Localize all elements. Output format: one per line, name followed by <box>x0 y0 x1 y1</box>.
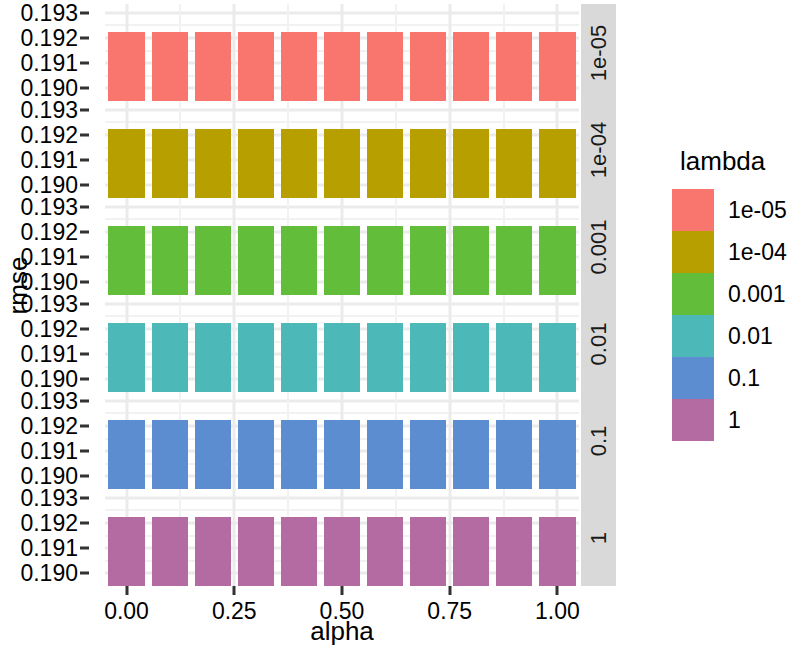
facet-panel <box>105 295 579 392</box>
y-tick-label: 0.193 <box>20 486 78 509</box>
y-tick-label: 0.192 <box>20 221 78 244</box>
bar <box>281 323 317 392</box>
bar <box>152 420 188 489</box>
legend-items: 1e-051e-040.0010.010.11 <box>672 189 802 441</box>
y-tick-mark <box>80 302 89 305</box>
legend-item[interactable]: 0.001 <box>672 273 802 315</box>
legend-item[interactable]: 0.1 <box>672 357 802 399</box>
bar <box>195 226 231 295</box>
bar <box>324 517 360 586</box>
y-axis-ticks: 0.1930.1920.1910.190 <box>0 295 92 392</box>
y-tick-mark <box>80 281 89 284</box>
bar <box>108 226 144 295</box>
facet-panel <box>105 4 579 101</box>
bar <box>496 323 532 392</box>
facet-strip: 0.01 <box>581 295 616 392</box>
bar <box>453 226 489 295</box>
facet-strip: 0.1 <box>581 392 616 489</box>
gridline-vertical-major <box>233 101 236 198</box>
bar <box>367 517 403 586</box>
x-tick-mark <box>125 586 128 595</box>
bar <box>324 226 360 295</box>
y-tick-label: 0.191 <box>20 343 78 366</box>
legend-label: 0.01 <box>728 323 773 350</box>
bar <box>238 226 274 295</box>
bar <box>324 32 360 101</box>
legend-key-swatch <box>672 357 714 399</box>
y-tick-mark <box>80 547 89 550</box>
facet-panel <box>105 101 579 198</box>
bar <box>539 226 575 295</box>
facet-strip: 1e-04 <box>581 101 616 198</box>
bar <box>195 323 231 392</box>
bar <box>281 226 317 295</box>
facet-strip-label: 1e-04 <box>586 121 612 177</box>
y-tick-mark <box>80 496 89 499</box>
facet-strip-label: 0.001 <box>586 219 612 274</box>
facet-row: 0.1930.1920.1910.1901 <box>0 489 620 586</box>
facet-row: 0.1930.1920.1910.1901e-04 <box>0 101 620 198</box>
bar <box>238 323 274 392</box>
y-axis-ticks: 0.1930.1920.1910.190 <box>0 392 92 489</box>
bar <box>195 517 231 586</box>
bar <box>410 32 446 101</box>
y-tick-label: 0.193 <box>20 292 78 315</box>
gridline-vertical-major <box>233 4 236 101</box>
bar <box>152 32 188 101</box>
legend-key-swatch <box>672 189 714 231</box>
y-tick-mark <box>80 134 89 137</box>
legend-item[interactable]: 1 <box>672 399 802 441</box>
bar <box>496 32 532 101</box>
bar <box>453 517 489 586</box>
legend-item[interactable]: 0.01 <box>672 315 802 357</box>
bar <box>367 226 403 295</box>
bar <box>539 517 575 586</box>
bar <box>324 323 360 392</box>
bar <box>281 420 317 489</box>
bar <box>496 517 532 586</box>
y-tick-mark <box>80 450 89 453</box>
facet-row: 0.1930.1920.1910.1901e-05 <box>0 4 620 101</box>
y-tick-label: 0.193 <box>20 1 78 24</box>
bar <box>281 32 317 101</box>
bar <box>453 32 489 101</box>
legend-label: 1e-04 <box>728 239 787 266</box>
y-tick-mark <box>80 87 89 90</box>
x-tick-mark <box>556 586 559 595</box>
legend-item[interactable]: 1e-05 <box>672 189 802 231</box>
facet-strip-label: 1 <box>586 531 612 543</box>
bar <box>496 420 532 489</box>
bar <box>410 517 446 586</box>
facet-panel <box>105 392 579 489</box>
bar <box>238 420 274 489</box>
y-axis-ticks: 0.1930.1920.1910.190 <box>0 198 92 295</box>
legend-item[interactable]: 1e-04 <box>672 231 802 273</box>
legend-key-swatch <box>672 273 714 315</box>
bar <box>410 420 446 489</box>
y-tick-label: 0.191 <box>20 440 78 463</box>
bar <box>367 323 403 392</box>
bar <box>238 129 274 198</box>
y-tick-label: 0.191 <box>20 537 78 560</box>
y-tick-mark <box>80 205 89 208</box>
gridline-vertical-major <box>448 489 451 586</box>
facet-strip: 0.001 <box>581 198 616 295</box>
gridline-vertical-major <box>233 295 236 392</box>
chart-plot-area: rmse 0.1930.1920.1910.1901e-050.1930.192… <box>0 0 804 646</box>
y-tick-mark <box>80 184 89 187</box>
y-axis-ticks: 0.1930.1920.1910.190 <box>0 4 92 101</box>
facet-strip-label: 0.01 <box>586 322 612 365</box>
bar <box>152 323 188 392</box>
bar <box>238 32 274 101</box>
bar <box>496 129 532 198</box>
bar <box>539 323 575 392</box>
bar <box>152 129 188 198</box>
legend-title: lambda <box>680 146 802 177</box>
y-tick-mark <box>80 37 89 40</box>
facet-row: 0.1930.1920.1910.1900.001 <box>0 198 620 295</box>
y-tick-label: 0.192 <box>20 27 78 50</box>
y-tick-mark <box>80 328 89 331</box>
facet-row: 0.1930.1920.1910.1900.01 <box>0 295 620 392</box>
legend-key-swatch <box>672 315 714 357</box>
y-tick-label: 0.193 <box>20 98 78 121</box>
